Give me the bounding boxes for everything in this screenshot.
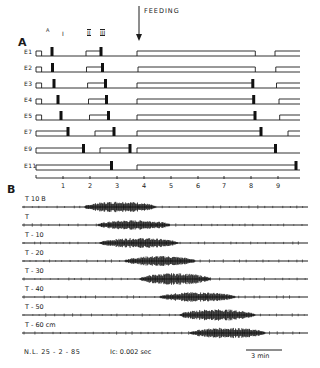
row-on-period [36, 51, 42, 56]
activity-spike [295, 161, 298, 170]
activity-spike [274, 144, 277, 153]
row-on-period [137, 99, 254, 104]
activity-spike [252, 95, 255, 104]
activity-spike [107, 111, 110, 120]
activity-spike [53, 79, 56, 88]
activity-spike [100, 47, 103, 56]
activity-spike [129, 144, 132, 153]
scale-bar-label: 3 min [251, 352, 269, 360]
row-label-e3: E3 [24, 80, 33, 87]
activity-spike [104, 79, 107, 88]
row-on-period [288, 131, 300, 136]
figure-canvas [0, 0, 320, 368]
row-on-period [137, 131, 261, 136]
row-on-period [36, 115, 42, 120]
row-label-e1: E1 [24, 48, 33, 55]
row-on-period [276, 67, 300, 72]
activity-spike [105, 95, 108, 104]
activity-spike [110, 161, 113, 170]
recording-id: N.L. 25 - 2 - 85 [24, 348, 80, 356]
axis-tick-label: 6 [196, 182, 200, 190]
row-on-period [89, 99, 107, 104]
row-on-period [275, 51, 300, 56]
trace-label: T - 30 [25, 267, 44, 275]
row-on-period [87, 67, 103, 72]
row-on-period [277, 83, 301, 88]
row-on-period [137, 115, 255, 120]
activity-spike [251, 79, 254, 88]
axis-tick-label: 9 [276, 182, 280, 190]
row-on-period [36, 83, 42, 88]
activity-spike [101, 63, 104, 72]
axis-tick-label: 4 [142, 182, 146, 190]
trace-label: T - 10 [25, 231, 44, 239]
activity-spike [51, 47, 54, 56]
activity-spike [60, 111, 63, 120]
activity-spike [260, 127, 263, 136]
row-on-period [88, 83, 106, 88]
axis-tick-label: 8 [249, 182, 253, 190]
row-on-period [95, 131, 114, 136]
row-on-period [36, 99, 42, 104]
row-on-period [279, 99, 300, 104]
row-label-e7: E7 [24, 128, 33, 135]
row-on-period [36, 148, 84, 153]
activity-spike [82, 144, 85, 153]
row-on-period [138, 67, 255, 72]
phase-marker-1: I [62, 30, 64, 37]
row-label-e9: E9 [24, 145, 33, 152]
row-on-period [36, 67, 42, 72]
axis-tick-label: 1 [61, 182, 65, 190]
activity-spike [113, 127, 116, 136]
activity-spike [254, 111, 257, 120]
activity-spike [67, 127, 70, 136]
activity-spike [51, 63, 54, 72]
row-on-period [90, 115, 109, 120]
row-on-period [86, 51, 101, 56]
phase-marker-3: III [100, 29, 105, 36]
activity-spike [57, 95, 60, 104]
row-on-period [280, 115, 300, 120]
row-on-period [100, 148, 130, 153]
row-on-period [137, 148, 276, 153]
axis-tick-label: 3 [115, 182, 119, 190]
row-label-e2: E2 [24, 64, 33, 71]
phase-marker-2: II [87, 29, 91, 36]
feeding-label: FEEDING [144, 7, 180, 15]
phase-marker-a: A [46, 27, 49, 33]
row-on-period [137, 51, 255, 56]
trace-label: T - 40 [25, 285, 44, 293]
row-on-period [137, 83, 253, 88]
row-label-e5: E5 [24, 112, 33, 119]
axis-tick-label: 5 [169, 182, 173, 190]
time-constant: Ic: 0.002 sec [110, 348, 151, 356]
trace-label: T - 50 [25, 303, 44, 311]
trace-label: T - 20 [25, 249, 44, 257]
axis-tick-label: 2 [88, 182, 92, 190]
row-label-e11: E11 [24, 162, 37, 169]
feeding-arrow-head [136, 34, 142, 41]
trace-label: T - 60 cm [25, 321, 56, 329]
row-label-e4: E4 [24, 96, 33, 103]
panel-b-letter: B [7, 183, 15, 196]
axis-tick-label: 7 [222, 182, 226, 190]
trace-label: T [25, 213, 29, 221]
trace-label: T 10 B [25, 195, 46, 203]
row-on-period [36, 131, 68, 136]
row-on-period [36, 165, 112, 170]
row-on-period [137, 165, 296, 170]
